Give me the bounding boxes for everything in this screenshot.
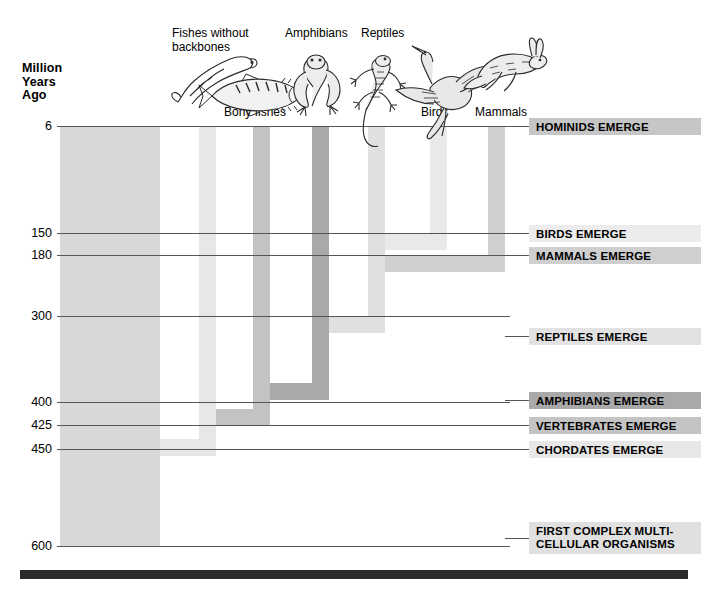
clade-bar-birds [430, 126, 447, 250]
tick-label-425: 425 [8, 419, 52, 431]
clade-bar-bony-fishes [253, 126, 270, 426]
group-caption-reptiles: Reptiles [361, 26, 431, 40]
clade-bar-mammals [488, 126, 505, 272]
clade-bar-amphibians [312, 126, 329, 400]
clade-elbow-bony-fishes [216, 409, 270, 426]
gridline-400 [57, 402, 510, 403]
event-label-amphibians: AMPHIBIANS EMERGE [529, 392, 701, 409]
gridline-300 [57, 316, 510, 317]
clade-bar-fishes-without-backbones [199, 126, 216, 456]
clade-elbow-birds [385, 233, 447, 250]
gridline-425 [57, 425, 510, 426]
bottom-divider-rule [20, 570, 688, 579]
tick-label-450: 450 [8, 443, 52, 455]
event-label-birds: BIRDS EMERGE [529, 225, 701, 242]
clade-elbow-fishes-without-backbones [160, 439, 216, 456]
gridline-150 [57, 233, 510, 234]
gridline-180 [57, 255, 510, 256]
clade-elbow-amphibians [270, 383, 329, 400]
tick-label-400: 400 [8, 396, 52, 408]
stem-lineage-column [60, 126, 160, 546]
y-axis-title: Million Years Ago [22, 62, 62, 103]
frog-illustration [290, 48, 346, 118]
clade-elbow-reptiles [329, 316, 385, 333]
leader-line-birds [505, 233, 530, 234]
gridline-450 [57, 449, 510, 450]
event-label-chordates: CHORDATES EMERGE [529, 441, 701, 458]
tick-label-600: 600 [8, 540, 52, 552]
leader-line-mammals [505, 255, 530, 256]
event-label-hominids: HOMINIDS EMERGE [529, 118, 701, 135]
event-label-first-complex-multicellular: FIRST COMPLEX MULTI- CELLULAR ORGANISMS [529, 522, 701, 554]
leader-line-vertebrates [505, 425, 530, 426]
tick-label-180: 180 [8, 249, 52, 261]
gridline-600 [57, 546, 510, 547]
tick-label-300: 300 [8, 310, 52, 322]
tick-label-6: 6 [8, 120, 52, 132]
clade-elbow-mammals [385, 255, 505, 272]
event-label-reptiles: REPTILES EMERGE [529, 328, 701, 345]
mammal-illustration [462, 36, 548, 98]
tick-label-150: 150 [8, 227, 52, 239]
leader-line-hominids [505, 126, 530, 127]
leader-line-first-complex [505, 538, 530, 539]
leader-line-amphibians [505, 400, 530, 401]
evolution-timeline-figure: Million Years Ago 6 150 180 300 400 425 … [0, 0, 707, 590]
leader-line-reptiles [505, 336, 530, 337]
clade-bar-reptiles [368, 126, 385, 333]
event-label-vertebrates: VERTEBRATES EMERGE [529, 417, 701, 434]
event-label-mammals: MAMMALS EMERGE [529, 247, 701, 264]
group-caption-amphibians: Amphibians [285, 26, 365, 40]
leader-line-chordates [505, 449, 530, 450]
